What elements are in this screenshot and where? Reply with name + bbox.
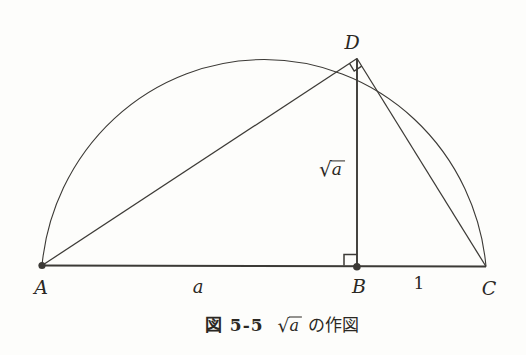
segment-ac-baseline [42, 266, 486, 267]
figure-caption: 図 5-5 √a の作図 [205, 311, 359, 336]
point-dot-a [38, 262, 45, 269]
point-label-d: D [344, 33, 359, 52]
sqrt-expression: √a [319, 160, 345, 179]
point-label-b: B [352, 277, 366, 296]
point-label-c: C [482, 279, 497, 298]
caption-radical-sign-icon: √ [278, 317, 289, 334]
segment-label-bc: 1 [414, 275, 425, 292]
segment-label-bd: √a [319, 160, 345, 179]
caption-suffix: の作図 [308, 311, 359, 336]
point-label-a: A [34, 278, 48, 297]
semicircle-arc [42, 60, 486, 267]
radicand: a [331, 161, 345, 180]
figure-number: 図 5-5 [205, 311, 264, 336]
caption-radicand: a [289, 317, 303, 335]
radical-sign-icon: √ [319, 160, 331, 178]
semicircle-diagram [0, 0, 526, 355]
caption-sqrt-expression: √a [278, 317, 303, 335]
segment-ad [42, 59, 357, 266]
right-angle-mark-d [350, 63, 362, 71]
point-dot-b [353, 263, 361, 271]
segment-label-ab: a [193, 278, 204, 296]
segment-dc [357, 59, 486, 267]
figure-5-5: A B C D a 1 √a 図 5-5 √a の作図 [0, 0, 526, 355]
